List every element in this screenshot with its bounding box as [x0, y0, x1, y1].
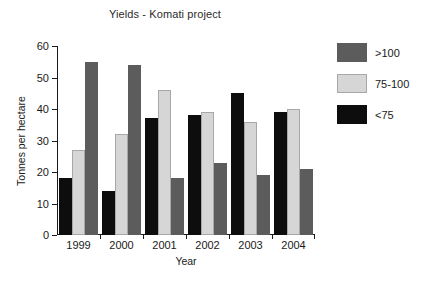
legend-label: <75 — [375, 109, 394, 121]
legend-swatch — [337, 105, 367, 124]
x-tick-mark — [314, 235, 315, 239]
legend-swatch — [337, 43, 367, 62]
bar-group-2000: 2000 — [100, 46, 143, 235]
bar-2001-100[interactable] — [171, 178, 184, 235]
bar-group-2002: 2002 — [186, 46, 229, 235]
y-tick-label: 30 — [37, 135, 49, 147]
y-tick-label: 20 — [37, 166, 49, 178]
bar-group-2001: 2001 — [143, 46, 186, 235]
bar-2002-75to100[interactable] — [201, 112, 214, 235]
plot-area: 0102030405060199920002001200220032004 — [57, 46, 315, 235]
x-axis-title: Year — [57, 255, 315, 267]
legend-label: 75-100 — [375, 78, 409, 90]
x-tick-mark — [229, 235, 230, 239]
bar-2001-75to100[interactable] — [158, 90, 171, 235]
bar-2000-75[interactable] — [102, 191, 115, 235]
x-tick-label-2001: 2001 — [152, 239, 176, 251]
y-tick-label: 50 — [37, 72, 49, 84]
chart-root: Yields - Komati project Tonnes per hecta… — [0, 0, 434, 281]
y-axis-title: Tonnes per hectare — [14, 46, 28, 235]
bar-group-2004: 2004 — [272, 46, 315, 235]
chart-legend: >10075-100<75 — [337, 43, 409, 136]
x-tick-mark — [272, 235, 273, 239]
bar-2002-75[interactable] — [188, 115, 201, 235]
x-tick-mark — [100, 235, 101, 239]
x-tick-label-2002: 2002 — [195, 239, 219, 251]
bar-2004-75to100[interactable] — [287, 109, 300, 235]
legend-label: >100 — [375, 47, 400, 59]
legend-item-75to100[interactable]: 75-100 — [337, 74, 409, 93]
bar-group-1999: 1999 — [57, 46, 100, 235]
bar-2000-75to100[interactable] — [115, 134, 128, 235]
bar-2003-100[interactable] — [257, 175, 270, 235]
chart-title: Yields - Komati project — [0, 8, 330, 20]
bar-2003-75[interactable] — [231, 93, 244, 235]
bar-1999-100[interactable] — [85, 62, 98, 235]
legend-item-75[interactable]: <75 — [337, 105, 409, 124]
x-tick-label-2000: 2000 — [109, 239, 133, 251]
bar-1999-75[interactable] — [59, 178, 72, 235]
y-axis-title-text: Tonnes per hectare — [15, 96, 27, 186]
bar-1999-75to100[interactable] — [72, 150, 85, 235]
x-tick-mark — [186, 235, 187, 239]
bar-2000-100[interactable] — [128, 65, 141, 235]
bar-2004-75[interactable] — [274, 112, 287, 235]
y-tick-label: 10 — [37, 198, 49, 210]
legend-item-100[interactable]: >100 — [337, 43, 409, 62]
y-tick-label: 0 — [43, 229, 49, 241]
bar-2003-75to100[interactable] — [244, 122, 257, 235]
x-tick-label-2003: 2003 — [238, 239, 262, 251]
bar-group-2003: 2003 — [229, 46, 272, 235]
y-tick-mark — [52, 235, 57, 236]
x-tick-label-2004: 2004 — [281, 239, 305, 251]
bar-2001-75[interactable] — [145, 118, 158, 235]
legend-swatch — [337, 74, 367, 93]
y-tick-label: 40 — [37, 103, 49, 115]
x-tick-label-1999: 1999 — [66, 239, 90, 251]
bar-2004-100[interactable] — [300, 169, 313, 235]
x-tick-mark — [143, 235, 144, 239]
bar-2002-100[interactable] — [214, 163, 227, 235]
y-tick-label: 60 — [37, 40, 49, 52]
